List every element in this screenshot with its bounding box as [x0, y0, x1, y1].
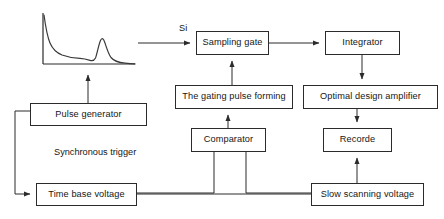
node-gating-pulse-forming[interactable]: The gating pulse forming	[175, 85, 293, 109]
node-label: Sampling gate	[202, 38, 262, 48]
wire-comparator-to-slow-scanning	[246, 152, 311, 193]
node-label: The gating pulse forming	[182, 92, 286, 102]
node-integrator[interactable]: Integrator	[325, 31, 400, 55]
wire-comparator-to-time-base	[137, 152, 214, 193]
node-comparator[interactable]: Comparator	[191, 128, 266, 152]
signal-waveform-plot	[36, 10, 140, 70]
node-label: Slow scanning voltage	[321, 190, 415, 200]
node-optimal-design-amplifier[interactable]: Optimal design amplifier	[303, 85, 438, 109]
node-slow-scanning-voltage[interactable]: Slow scanning voltage	[311, 183, 424, 206]
node-sampling-gate[interactable]: Sampling gate	[196, 31, 269, 55]
node-label: Comparator	[204, 135, 254, 145]
label-si: Si	[178, 23, 188, 33]
node-label: Time base voltage	[48, 190, 124, 200]
node-pulse-generator[interactable]: Pulse generator	[30, 103, 147, 126]
node-time-base-voltage[interactable]: Time base voltage	[36, 183, 137, 206]
wire-pulse-generator-to-time-base	[15, 111, 30, 194]
node-label: Pulse generator	[55, 110, 121, 120]
node-label: Optimal design amplifier	[320, 92, 421, 102]
node-label: Recorde	[340, 135, 375, 145]
plot-curve	[44, 15, 135, 64]
block-diagram-canvas: Sampling gate Integrator The gating puls…	[0, 0, 444, 219]
label-synchronous-trigger: Synchronous trigger	[53, 147, 137, 157]
node-label: Integrator	[342, 38, 382, 48]
node-recorde[interactable]: Recorde	[323, 128, 392, 152]
